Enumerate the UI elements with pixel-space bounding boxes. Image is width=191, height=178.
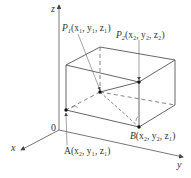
label-b: B(x₂, y₂, z₁) xyxy=(130,131,175,142)
svg-text:P2(x₂, y₂, z₂): P2(x₂, y₂, z₂) xyxy=(115,30,165,41)
origin-label: 0 xyxy=(51,122,56,133)
x-axis xyxy=(21,130,59,150)
x-axis-label: x xyxy=(10,142,16,153)
point-p1 xyxy=(98,90,101,93)
point-p2 xyxy=(137,80,140,83)
svg-text:A(x₂, y₁, z₁): A(x₂, y₁, z₁) xyxy=(64,146,110,157)
point-b xyxy=(137,125,140,128)
label-leaders xyxy=(66,34,139,145)
segment-p1-p2 xyxy=(100,82,139,92)
label-p2: P2(x₂, y₂, z₂) xyxy=(115,30,165,41)
svg-text:B(x₂, y₂, z₁): B(x₂, y₂, z₁) xyxy=(130,131,175,142)
z-axis-label: z xyxy=(50,3,55,14)
y-axis-label: y xyxy=(176,159,182,170)
segment-p1-b xyxy=(100,92,139,127)
box-solid-edges xyxy=(66,47,175,127)
label-a: A(x₂, y₁, z₁) xyxy=(64,146,110,157)
point-a xyxy=(64,108,67,111)
svg-text:P1(x₁, y₁, z₁): P1(x₁, y₁, z₁) xyxy=(61,23,111,34)
label-p1: P1(x₁, y₁, z₁) xyxy=(61,23,111,34)
points xyxy=(64,80,140,128)
box-distance-diagram: z x y 0 P1(x₁, y₁, z₁) P2(x₂, y₂, z₂) A(… xyxy=(0,0,191,178)
